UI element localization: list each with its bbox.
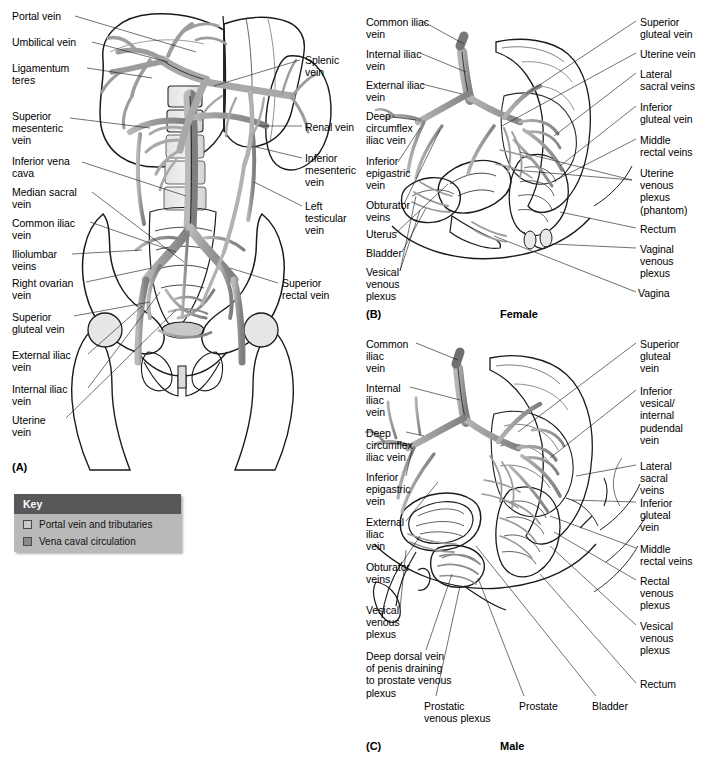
- key-header: Key: [14, 494, 181, 514]
- panel-b-caption: Female: [500, 308, 538, 320]
- label-external-iliac-vein-c: External iliac vein: [366, 516, 404, 553]
- label-vaginal-venous-plexus-b: Vaginal venous plexus: [640, 243, 674, 280]
- panel-c-id: (C): [366, 740, 381, 752]
- label-deep-circumflex-iliac-vein-c: Deep circumflex iliac vein: [366, 427, 413, 464]
- label-vagina-b: Vagina: [638, 287, 670, 299]
- label-superior-gluteal-vein-a: Superior gluteal vein: [12, 311, 65, 335]
- label-vesical-venous-plexus-c: Vesical venous plexus: [366, 604, 400, 641]
- key-swatch-portal: [23, 520, 32, 529]
- anatomy-figure: Portal vein Umbilical vein Ligamentum te…: [0, 0, 708, 762]
- label-inferior-gluteal-vein-b: Inferior gluteal vein: [640, 101, 693, 125]
- key-row-portal: Portal vein and tributaries: [14, 517, 181, 531]
- label-middle-rectal-veins-b: Middle rectal veins: [640, 134, 693, 158]
- label-median-sacral-vein: Median sacral vein: [12, 186, 77, 210]
- label-external-iliac-vein-b: External iliac vein: [366, 79, 425, 103]
- label-external-iliac-vein-a: External iliac vein: [12, 349, 71, 373]
- key-title: Key: [23, 498, 42, 510]
- leader-lines-b-right: [494, 21, 636, 292]
- label-uterine-vein-a: Uterine vein: [12, 414, 46, 438]
- label-vesical-venous-plexus-right-c: Vesical venous plexus: [640, 620, 674, 657]
- label-right-ovarian-vein: Right ovarian vein: [12, 277, 73, 301]
- label-uterine-vein-b: Uterine vein: [640, 48, 695, 60]
- label-left-testicular-vein: Left testicular vein: [305, 200, 347, 237]
- label-iliolumbar-veins: Iliolumbar veins: [12, 248, 57, 272]
- label-superior-gluteal-vein-c: Superior gluteal vein: [640, 338, 679, 375]
- label-inferior-gluteal-vein-c: Inferior gluteal vein: [640, 497, 672, 534]
- label-common-iliac-vein-c: Common iliac vein: [366, 338, 408, 375]
- label-middle-rectal-veins-c: Middle rectal veins: [640, 543, 693, 567]
- label-lateral-sacral-veins-c: Lateral sacral veins: [640, 460, 672, 497]
- label-deep-circumflex-iliac-vein-b: Deep circumflex iliac vein: [366, 110, 413, 147]
- label-internal-iliac-vein-c: Internal iliac vein: [366, 382, 401, 419]
- label-inferior-mesenteric-vein: Inferior mesenteric vein: [305, 152, 356, 189]
- key-legend: Key Portal vein and tributaries Vena cav…: [14, 494, 181, 552]
- key-swatch-caval: [23, 537, 32, 546]
- label-inferior-epigastric-vein-c: Inferior epigastric vein: [366, 471, 410, 508]
- label-inferior-vena-cava: Inferior vena cava: [12, 155, 70, 179]
- panel-c-caption: Male: [500, 740, 524, 752]
- label-uterine-venous-plexus-b: Uterine venous plexus (phantom): [640, 167, 687, 216]
- label-common-iliac-vein-a: Common iliac vein: [12, 217, 75, 241]
- label-uterus-b: Uterus: [366, 228, 397, 240]
- label-obturator-veins-c: Obturator veins: [366, 561, 410, 585]
- label-inferior-vesical-internal-pudendal-vein-c: Inferior vesical/ internal pudendal vein: [640, 385, 683, 446]
- label-rectum-b: Rectum: [640, 223, 676, 235]
- label-bladder-c: Bladder: [592, 700, 628, 712]
- label-internal-iliac-vein-a: Internal iliac vein: [12, 383, 67, 407]
- key-row-caval: Vena caval circulation: [14, 534, 181, 548]
- leader-lines-c-bottom: [436, 546, 596, 696]
- label-superior-rectal-vein: Superior rectal vein: [282, 277, 329, 301]
- key-label-caval: Vena caval circulation: [39, 536, 136, 547]
- label-umbilical-vein: Umbilical vein: [12, 36, 76, 48]
- leader-lines-left: [66, 16, 196, 418]
- label-inferior-epigastric-vein-b: Inferior epigastric vein: [366, 155, 410, 192]
- label-lateral-sacral-veins-b: Lateral sacral veins: [640, 68, 695, 92]
- label-rectal-venous-plexus-c: Rectal venous plexus: [640, 575, 674, 612]
- panel-b-id: (B): [366, 308, 381, 320]
- panel-a-id: (A): [12, 461, 27, 473]
- label-superior-mesenteric-vein: Superior mesenteric vein: [12, 110, 63, 147]
- key-label-portal: Portal vein and tributaries: [39, 519, 152, 530]
- label-renal-vein: Renal vein: [305, 121, 354, 133]
- label-rectum-c: Rectum: [640, 678, 676, 690]
- label-vesical-venous-plexus-b: Vesical venous plexus: [366, 266, 400, 303]
- label-superior-gluteal-vein-b: Superior gluteal vein: [640, 16, 693, 40]
- label-internal-iliac-vein-b: Internal iliac vein: [366, 48, 421, 72]
- label-prostatic-venous-plexus-c: Prostatic venous plexus: [424, 700, 490, 724]
- label-deep-dorsal-vein-of-penis-c: Deep dorsal vein of penis draining to pr…: [366, 650, 452, 699]
- label-bladder-b: Bladder: [366, 247, 402, 259]
- label-common-iliac-vein-b: Common iliac vein: [366, 16, 429, 40]
- label-prostate-c: Prostate: [519, 700, 558, 712]
- label-splenic-vein: Splenic vein: [305, 54, 339, 78]
- label-portal-vein: Portal vein: [12, 10, 61, 22]
- label-ligamentum-teres: Ligamentum teres: [12, 62, 69, 86]
- uterus-illustration-b: [438, 160, 510, 213]
- label-obturator-veins-b: Obturator veins: [366, 199, 410, 223]
